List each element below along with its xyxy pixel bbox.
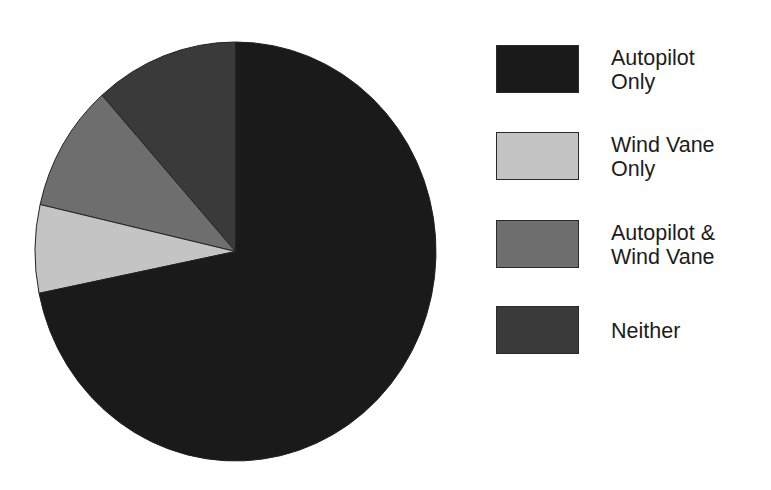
legend-label-autopilot-only: Autopilot Only	[611, 46, 695, 94]
legend-label-wind-vane-only: Wind Vane Only	[611, 133, 715, 181]
legend-label-neither: Neither	[611, 319, 680, 343]
legend-swatch-wind-vane-only	[496, 132, 579, 180]
legend-swatch-autopilot-only	[496, 45, 579, 93]
pie-chart: Autopilot Only Wind Vane Only Autopilot …	[0, 0, 771, 490]
legend-label-autopilot-and-wind-vane: Autopilot & Wind Vane	[611, 221, 715, 269]
legend-item-autopilot-only: Autopilot Only	[496, 45, 766, 95]
legend-swatch-autopilot-and-wind-vane	[496, 220, 579, 268]
legend-item-wind-vane-only: Wind Vane Only	[496, 132, 766, 182]
legend-item-neither: Neither	[496, 306, 766, 356]
legend-item-autopilot-and-wind-vane: Autopilot & Wind Vane	[496, 220, 766, 270]
legend-swatch-neither	[496, 306, 579, 354]
legend: Autopilot Only Wind Vane Only Autopilot …	[0, 0, 771, 490]
